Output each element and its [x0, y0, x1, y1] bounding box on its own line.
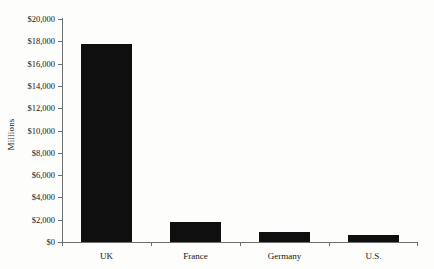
y-tick-mark: [58, 197, 62, 198]
y-tick-label: $4,000: [32, 193, 55, 202]
y-tick-label: $16,000: [27, 59, 55, 68]
y-tick-mark: [58, 108, 62, 109]
bar-chart: Millions $0$2,000$4,000$6,000$8,000$10,0…: [0, 0, 434, 269]
bar: [81, 44, 132, 242]
x-tick-mark: [417, 242, 418, 246]
x-tick-mark: [151, 242, 152, 246]
y-tick-label: $12,000: [27, 104, 55, 113]
y-tick-label: $10,000: [27, 126, 55, 135]
y-tick-mark: [58, 153, 62, 154]
y-tick-label: $0: [47, 238, 56, 247]
y-tick-mark: [58, 86, 62, 87]
y-tick-label: $2,000: [32, 215, 55, 224]
y-tick-label: $20,000: [27, 15, 55, 24]
bar: [348, 235, 399, 242]
x-axis-label: U.S.: [365, 252, 381, 261]
y-tick-mark: [58, 131, 62, 132]
y-tick-label: $6,000: [32, 171, 55, 180]
x-tick-mark: [329, 242, 330, 246]
y-tick-label: $8,000: [32, 149, 55, 158]
y-tick-mark: [58, 220, 62, 221]
y-tick-mark: [58, 41, 62, 42]
x-axis-label: France: [183, 252, 208, 261]
y-tick-label: $18,000: [27, 37, 55, 46]
x-axis-label: UK: [100, 252, 113, 261]
x-tick-mark: [62, 242, 63, 246]
plot-area: $0$2,000$4,000$6,000$8,000$10,000$12,000…: [62, 19, 418, 242]
y-tick-mark: [58, 19, 62, 20]
bar: [259, 232, 310, 242]
bar: [170, 222, 221, 242]
x-axis-label: Germany: [268, 252, 302, 261]
y-tick-label: $14,000: [27, 82, 55, 91]
x-tick-mark: [240, 242, 241, 246]
y-tick-mark: [58, 175, 62, 176]
y-tick-mark: [58, 64, 62, 65]
y-axis-title: Millions: [0, 0, 22, 269]
